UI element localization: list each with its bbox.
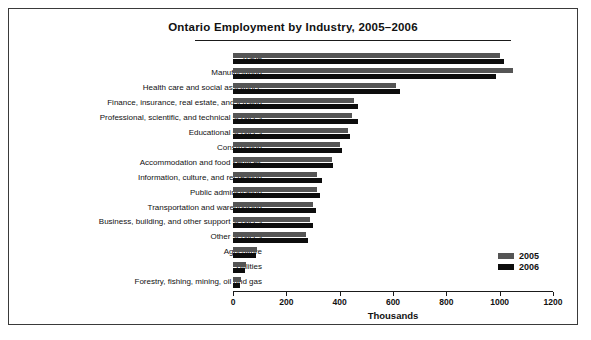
bar-2006	[233, 223, 313, 228]
chart-legend: 20052006	[498, 250, 539, 272]
title-underline	[195, 40, 511, 41]
bar-2005	[233, 277, 241, 282]
bar-2006	[233, 89, 400, 94]
category-label: Educational services	[52, 129, 262, 137]
category-label: Trade	[52, 55, 262, 63]
x-tick-label: 200	[266, 297, 306, 307]
category-label: Other services	[52, 233, 262, 241]
legend-entry: 2005	[498, 250, 539, 261]
bar-2005	[233, 98, 354, 103]
bar-2006	[233, 283, 240, 288]
chart-title: Ontario Employment by Industry, 2005–200…	[9, 21, 577, 33]
bar-2006	[233, 74, 496, 79]
bar-2006	[233, 163, 333, 168]
bar-2005	[233, 128, 348, 133]
bar-2005	[233, 53, 500, 58]
category-label: Public adminstration	[52, 189, 262, 197]
category-label: Construction	[52, 144, 262, 152]
x-tick-mark	[553, 292, 554, 296]
category-label: Accommodation and food services	[52, 159, 262, 167]
bar-2005	[233, 217, 310, 222]
category-label: Business, building, and other support se…	[52, 218, 262, 226]
x-tick-label: 0	[213, 297, 253, 307]
bar-2006	[233, 208, 316, 213]
bar-2006	[233, 253, 256, 258]
bar-2006	[233, 193, 320, 198]
x-tick-mark	[446, 292, 447, 296]
category-label: Health care and social assistance	[52, 84, 262, 92]
category-label: Professional, scientific, and technical …	[52, 114, 262, 122]
x-axis-label: Thousands	[233, 310, 553, 321]
x-tick-label: 400	[320, 297, 360, 307]
bar-2005	[233, 68, 513, 73]
category-label: Transportation and warehousing	[52, 204, 262, 212]
bar-2006	[233, 59, 504, 64]
bar-2005	[233, 113, 352, 118]
x-tick-mark	[500, 292, 501, 296]
x-tick-label: 1200	[533, 297, 573, 307]
bar-2006	[233, 268, 245, 273]
bar-2005	[233, 247, 257, 252]
x-tick-label: 600	[373, 297, 413, 307]
bar-2005	[233, 142, 340, 147]
x-tick-label: 800	[426, 297, 466, 307]
x-tick-mark	[286, 292, 287, 296]
legend-swatch	[498, 253, 514, 259]
x-tick-mark	[340, 292, 341, 296]
bar-2006	[233, 178, 322, 183]
category-label: Finance, insurance, real estate, and lea…	[52, 99, 262, 107]
category-label: Forestry, fishing, mining, oil and gas	[52, 278, 262, 286]
bar-2006	[233, 104, 358, 109]
bar-2006	[233, 238, 308, 243]
bar-2005	[233, 172, 317, 177]
category-label: Manufacturing	[52, 69, 262, 77]
chart-frame: Ontario Employment by Industry, 2005–200…	[8, 8, 578, 325]
bar-2005	[233, 232, 306, 237]
bar-2005	[233, 187, 317, 192]
bar-2005	[233, 262, 246, 267]
bar-2006	[233, 119, 358, 124]
legend-label: 2006	[519, 262, 539, 272]
x-tick-label: 1000	[480, 297, 520, 307]
legend-swatch	[498, 264, 514, 270]
legend-label: 2005	[519, 251, 539, 261]
category-label: Utilities	[52, 263, 262, 271]
bar-2005	[233, 202, 313, 207]
bar-2005	[233, 83, 396, 88]
bar-2006	[233, 134, 350, 139]
bar-2006	[233, 148, 342, 153]
category-label: Information, culture, and recreation	[52, 174, 262, 182]
x-tick-mark	[393, 292, 394, 296]
legend-entry: 2006	[498, 261, 539, 272]
x-tick-mark	[233, 292, 234, 296]
bar-2005	[233, 157, 332, 162]
category-label: Agriculture	[52, 248, 262, 256]
